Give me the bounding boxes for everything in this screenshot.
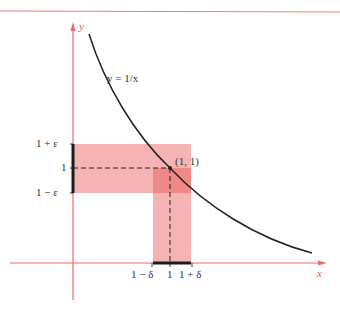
curve-label: y = 1/x [107,73,138,84]
epsilon-delta-diagram [0,0,340,310]
x-axis-label: x [317,268,322,279]
y-axis-label: y [79,21,84,32]
top-rule [0,11,340,12]
x-tick-label-right: 1 + δ [179,269,201,280]
x-tick-label-left: 1 − δ [131,269,153,280]
point-1-1 [168,166,172,170]
band-overlap [153,168,191,193]
curve-y-equals-1-over-x [89,34,312,253]
y-tick-label-mid: 1 [61,162,67,173]
x-tick-label-mid: 1 [167,269,173,280]
y-tick-label-bottom: 1 − ε [36,187,58,198]
y-axis-arrow-icon [71,22,76,31]
x-axis-arrow-icon [318,261,327,266]
point-label: (1, 1) [175,156,199,167]
y-tick-label-top: 1 + ε [36,138,58,149]
